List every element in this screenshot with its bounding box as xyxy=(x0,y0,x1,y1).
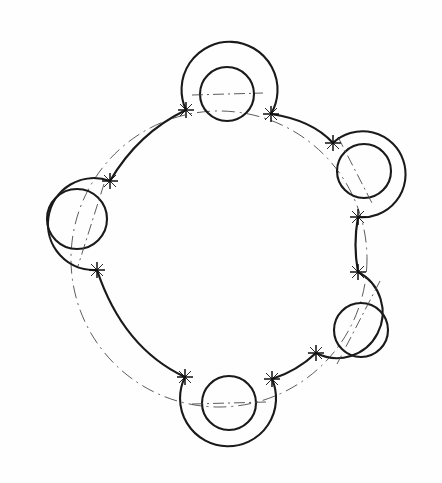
node-marker-8 xyxy=(177,369,193,385)
lobe-top-boss-outline xyxy=(182,42,278,114)
node-marker-4 xyxy=(350,209,366,225)
pitch-circle-construction-group xyxy=(71,111,367,407)
lobe-left-hole-centerline xyxy=(78,184,104,266)
connector-arc-right-short xyxy=(356,217,359,272)
node-marker-9 xyxy=(89,262,105,278)
connector-arc-left-top xyxy=(110,110,186,181)
cad-drawing-svg[interactable] xyxy=(0,0,442,483)
node-marker-2 xyxy=(263,106,279,122)
node-marker-6 xyxy=(308,345,324,361)
lobe-left-boss-outline xyxy=(48,178,110,270)
lobe-upper-right-hole-centerline xyxy=(338,137,373,205)
lobe-upper-right-hole xyxy=(337,144,391,198)
lobe-lower-right-group[interactable] xyxy=(316,272,388,364)
lobe-left-group[interactable] xyxy=(47,178,110,270)
lobe-lower-right-hole-centerline xyxy=(337,281,380,364)
node-marker-3 xyxy=(325,135,341,151)
node-markers-group xyxy=(89,102,366,387)
lobe-upper-right-group[interactable] xyxy=(333,131,406,217)
node-marker-5 xyxy=(350,264,366,280)
connector-arc-bottom-left xyxy=(97,270,185,377)
node-marker-1 xyxy=(178,102,194,118)
lobe-left-hole xyxy=(47,189,107,249)
lobe-top-group[interactable] xyxy=(182,42,278,121)
lobe-top-hole xyxy=(200,67,254,121)
drawing-canvas[interactable] xyxy=(0,0,442,483)
lobe-bottom-group[interactable] xyxy=(180,376,276,446)
node-marker-7 xyxy=(264,371,280,387)
pitch-circle-centerline xyxy=(71,111,367,407)
lobe-top-hole-centerline xyxy=(192,93,263,95)
connector-arc-lower-right-bottom xyxy=(272,353,316,379)
connector-arc-top-upper-right xyxy=(271,114,333,143)
lobe-lower-right-boss-outline xyxy=(316,272,383,358)
lobe-bottom-boss-outline xyxy=(180,377,276,446)
node-marker-10 xyxy=(102,173,118,189)
